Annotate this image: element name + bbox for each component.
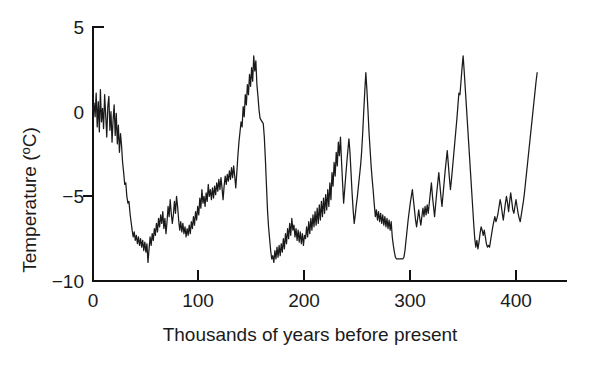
axis-spines (93, 27, 566, 281)
x-tick-labels: 0 100 200 300 400 (88, 290, 532, 311)
y-tick-label-minus5: −5 (62, 186, 84, 207)
y-axis-title-text: Temperature ( (19, 154, 40, 273)
degree-symbol: o (18, 147, 33, 154)
y-axis-unit-text: C) (19, 127, 40, 147)
temperature-line-chart: Temperature (oC) 5 0 −5 −10 0 100 (0, 0, 596, 366)
chart-figure: Temperature (oC) 5 0 −5 −10 0 100 (0, 0, 596, 366)
y-axis-title: Temperature (oC) (18, 127, 40, 273)
svg-text:Temperature (oC): Temperature (oC) (18, 127, 40, 273)
temperature-series-line (93, 56, 537, 263)
x-axis-title: Thousands of years before present (163, 324, 458, 345)
y-tick-label-5: 5 (73, 17, 84, 38)
y-tick-labels: 5 0 −5 −10 (52, 17, 84, 292)
y-tick-label-minus10: −10 (52, 271, 84, 292)
x-tick-label-400: 400 (500, 290, 532, 311)
x-tick-label-0: 0 (88, 290, 99, 311)
x-axis-ticks (198, 270, 516, 281)
x-tick-label-100: 100 (182, 290, 214, 311)
x-tick-label-300: 300 (394, 290, 426, 311)
y-tick-label-0: 0 (73, 102, 84, 123)
x-tick-label-200: 200 (288, 290, 320, 311)
